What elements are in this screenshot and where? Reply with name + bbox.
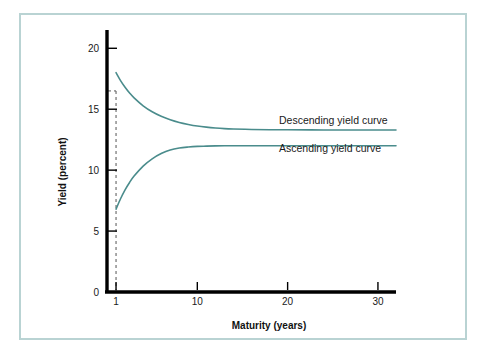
ascending-yield-curve bbox=[116, 146, 396, 209]
yield-curve-figure: 05101520 1102030 Maturity (years) Yield … bbox=[0, 0, 490, 359]
descending-curve-label: Descending yield curve bbox=[279, 114, 388, 126]
y-tick-label-0: 0 bbox=[93, 287, 99, 298]
y-tick-label-10: 10 bbox=[88, 165, 100, 176]
x-tick-label-20: 20 bbox=[282, 296, 294, 307]
x-axis-title: Maturity (years) bbox=[232, 320, 306, 331]
maturity-one-guide bbox=[108, 91, 116, 292]
x-tick-label-1: 1 bbox=[113, 296, 119, 307]
y-axis-title: Yield (percent) bbox=[57, 137, 68, 206]
x-tick-label-30: 30 bbox=[372, 296, 384, 307]
yield-curve-chart: 05101520 1102030 Maturity (years) Yield … bbox=[0, 0, 490, 359]
ascending-curve-label: Ascending yield curve bbox=[279, 142, 381, 154]
y-tick-label-15: 15 bbox=[88, 104, 100, 115]
x-tick-label-10: 10 bbox=[192, 296, 204, 307]
y-tick-label-5: 5 bbox=[93, 226, 99, 237]
x-axis-tick-labels: 1102030 bbox=[113, 296, 384, 307]
y-axis-tick-labels: 05101520 bbox=[88, 43, 100, 298]
y-tick-label-20: 20 bbox=[88, 43, 100, 54]
x-axis-ticks bbox=[116, 282, 378, 290]
